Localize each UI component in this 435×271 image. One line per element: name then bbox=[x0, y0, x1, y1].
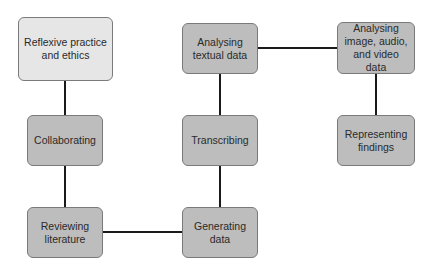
node-reviewing-literature: Reviewing literature bbox=[27, 207, 103, 258]
node-collaborating: Collaborating bbox=[27, 115, 103, 166]
node-label: Generating data bbox=[194, 220, 246, 246]
node-generating-data: Generating data bbox=[182, 207, 258, 258]
node-reflexive-practice: Reflexive practice and ethics bbox=[18, 17, 113, 81]
node-label: Reflexive practice and ethics bbox=[24, 36, 107, 62]
node-representing-findings: Representing findings bbox=[337, 115, 415, 166]
node-label: Analysing textual data bbox=[193, 36, 247, 62]
node-label: Representing findings bbox=[345, 128, 407, 154]
node-analysing-image-audio-video: Analysing image, audio, and video data bbox=[337, 22, 415, 74]
node-transcribing: Transcribing bbox=[182, 115, 258, 166]
node-label: Transcribing bbox=[191, 134, 248, 147]
node-label: Analysing image, audio, and video data bbox=[342, 22, 410, 74]
node-analysing-textual-data: Analysing textual data bbox=[182, 23, 258, 74]
node-label: Reviewing literature bbox=[41, 220, 89, 246]
node-label: Collaborating bbox=[34, 134, 96, 147]
diagram-canvas: Reflexive practice and ethics Collaborat… bbox=[0, 0, 435, 271]
